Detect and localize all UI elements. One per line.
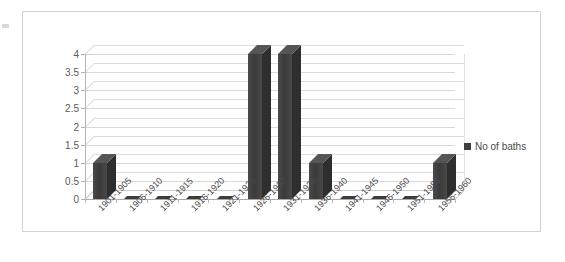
y-axis-tick-label: 3.5 xyxy=(65,67,79,78)
y-axis-tick-label: 4 xyxy=(73,49,79,60)
y-axis-tick xyxy=(81,181,85,182)
gridline-back xyxy=(94,45,464,46)
y-axis-tick-label: 3 xyxy=(73,85,79,96)
wall-right-edge xyxy=(464,54,465,190)
y-axis-tick-label: 2.5 xyxy=(65,103,79,114)
y-axis-tick xyxy=(81,163,85,164)
y-axis-tick-label: 0 xyxy=(73,194,79,205)
plot-area: 00.511.522.533.54 xyxy=(85,54,455,199)
y-axis-tick-label: 1.5 xyxy=(65,139,79,150)
chart-screenshot: 00.511.522.533.54 1901-19051906-19101911… xyxy=(0,0,565,262)
bar xyxy=(93,163,107,199)
chart-frame: 00.511.522.533.54 1901-19051906-19101911… xyxy=(22,11,541,232)
y-axis-tick-label: 1 xyxy=(73,157,79,168)
y-axis-tick xyxy=(81,90,85,91)
y-axis-tick xyxy=(81,108,85,109)
y-axis-tick xyxy=(81,127,85,128)
y-axis-tick-label: 2 xyxy=(73,121,79,132)
x-axis-tick xyxy=(85,199,86,203)
bar-side-face xyxy=(262,45,271,199)
bar-side-face xyxy=(292,45,301,199)
legend-square-marker-icon xyxy=(464,143,471,150)
y-axis-tick xyxy=(81,72,85,73)
bar-front-face xyxy=(93,163,107,199)
chart-legend: No of baths xyxy=(464,141,526,152)
y-axis-tick xyxy=(81,54,85,55)
value-axis xyxy=(85,54,86,199)
edge-artifact xyxy=(2,24,9,28)
legend-label: No of baths xyxy=(475,141,526,152)
y-axis-tick-label: 0.5 xyxy=(65,175,79,186)
y-axis-tick xyxy=(81,145,85,146)
